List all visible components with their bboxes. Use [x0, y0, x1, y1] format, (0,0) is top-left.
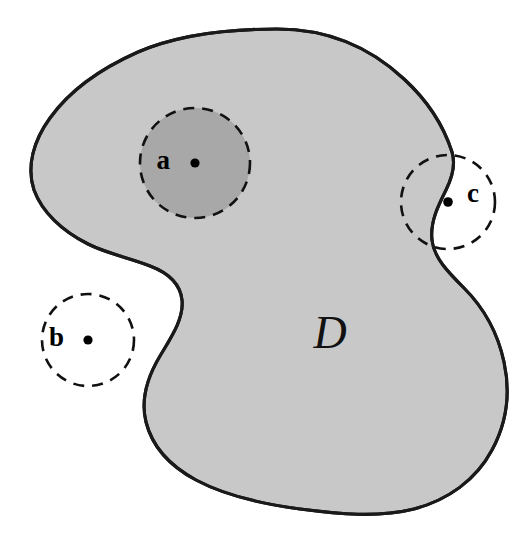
point-label-a: a [157, 145, 171, 175]
point-label-c: c [467, 178, 479, 208]
point-dot-b [83, 335, 92, 344]
point-label-b: b [49, 322, 64, 352]
point-dot-a [190, 158, 199, 167]
topology-figure: a b c D [0, 0, 532, 539]
region-outline [31, 29, 507, 514]
figure-canvas: a b c D [0, 0, 532, 539]
point-dot-c [443, 197, 453, 207]
region-label: D [312, 307, 346, 358]
